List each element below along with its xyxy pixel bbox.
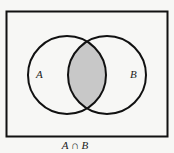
caption: A ∩ B <box>0 139 150 151</box>
set-a-label: A <box>36 68 43 80</box>
venn-diagram <box>0 0 174 153</box>
set-b-label: B <box>130 68 137 80</box>
